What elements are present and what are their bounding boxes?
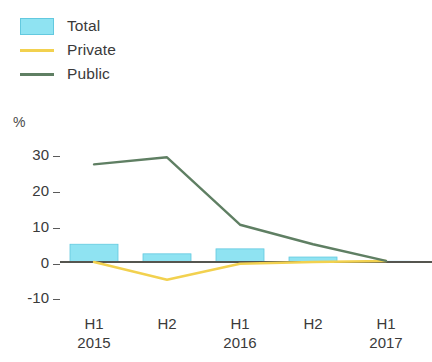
- x-tick-h2-2015: H2: [132, 314, 202, 333]
- bar-total-2: [216, 249, 264, 262]
- bar-total-0: [70, 244, 118, 262]
- x-tick-h2-2016: H2: [278, 314, 348, 333]
- x-tick-h1-2015: H1 2015: [59, 314, 129, 352]
- bar-series-total: [70, 244, 410, 262]
- x-tick-h1-2016: H1 2016: [205, 314, 275, 352]
- line-series-public: [94, 157, 386, 261]
- chart-figure: Total Private Public % 30 20 10 0 -10: [0, 0, 432, 362]
- line-series-private: [94, 261, 386, 280]
- plot-area: [0, 0, 432, 362]
- bar-total-1: [143, 254, 191, 262]
- x-tick-h1-2017: H1 2017: [351, 314, 421, 352]
